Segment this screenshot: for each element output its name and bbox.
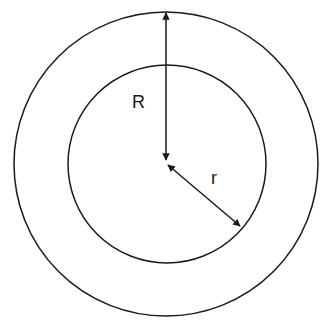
inner-radius-label: r xyxy=(211,168,217,188)
inner-radius-arrow xyxy=(168,165,240,226)
outer-radius-label: R xyxy=(132,92,145,112)
inner-circle xyxy=(68,65,266,263)
concentric-circles-diagram: R r xyxy=(0,0,323,330)
